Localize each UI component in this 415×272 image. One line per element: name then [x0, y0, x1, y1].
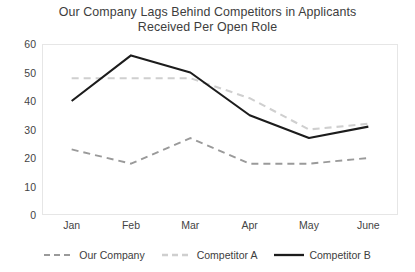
- x-axis-tick: Jan: [63, 219, 80, 231]
- y-axis-tick: 0: [30, 209, 36, 221]
- x-axis-tick: May: [299, 219, 319, 231]
- series-line-competitor-a: [72, 78, 369, 129]
- y-axis-tick: 20: [24, 152, 36, 164]
- legend-swatch: [274, 250, 304, 260]
- plot-lines: [42, 44, 398, 215]
- x-axis-tick: Feb: [122, 219, 140, 231]
- y-axis-tick: 40: [24, 95, 36, 107]
- legend-label: Competitor A: [197, 249, 258, 261]
- x-axis: JanFebMarAprMayJune: [42, 219, 398, 235]
- y-axis-tick: 50: [24, 67, 36, 79]
- series-line-our-company: [72, 138, 369, 164]
- legend-label: Competitor B: [309, 249, 370, 261]
- x-axis-tick: Mar: [181, 219, 199, 231]
- legend-item-competitor-b[interactable]: Competitor B: [274, 249, 370, 261]
- legend-item-competitor-a[interactable]: Competitor A: [162, 249, 258, 261]
- legend-swatch: [162, 250, 192, 260]
- x-axis-tick: Apr: [241, 219, 257, 231]
- chart-legend: Our CompanyCompetitor ACompetitor B: [0, 246, 415, 264]
- chart-container: Our Company Lags Behind Competitors in A…: [0, 0, 415, 272]
- chart-title-line-2: Received Per Open Role: [0, 20, 415, 35]
- y-axis: 0102030405060: [0, 44, 36, 215]
- legend-swatch: [44, 250, 74, 260]
- legend-item-our-company[interactable]: Our Company: [44, 249, 144, 261]
- y-axis-tick: 60: [24, 38, 36, 50]
- y-axis-tick: 30: [24, 124, 36, 136]
- x-axis-tick: June: [357, 219, 380, 231]
- chart-title: Our Company Lags Behind Competitors in A…: [0, 5, 415, 35]
- series-line-competitor-b: [72, 55, 369, 138]
- y-axis-tick: 10: [24, 181, 36, 193]
- legend-label: Our Company: [79, 249, 144, 261]
- chart-title-line-1: Our Company Lags Behind Competitors in A…: [0, 5, 415, 20]
